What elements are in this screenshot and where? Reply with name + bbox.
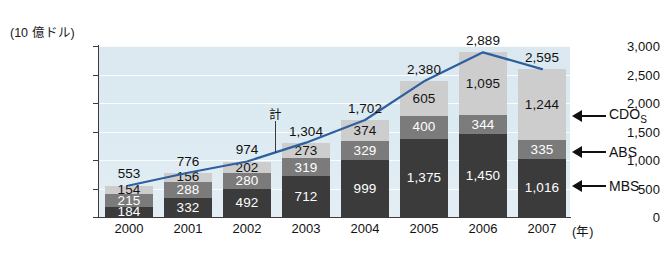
bar-segment-abs[interactable]: 335: [518, 140, 566, 159]
bar-total-value: 2,595: [525, 50, 559, 65]
y-axis-tick-mark: [93, 46, 98, 47]
bar-group[interactable]: 999329374: [341, 46, 389, 217]
bar-segment-mbs[interactable]: 492: [223, 189, 271, 217]
bar-segment-value: 999: [354, 182, 377, 196]
y-axis-unit-caption: (10 億ドル): [10, 22, 75, 41]
legend-item-mbs: MBS: [572, 179, 639, 193]
x-axis-unit-label: (年): [572, 221, 593, 240]
bar-segment-mbs[interactable]: 712: [282, 176, 330, 217]
bar-segment-cdos[interactable]: 1,244: [518, 69, 566, 140]
bar-segment-abs[interactable]: 400: [400, 116, 448, 139]
bar-segment-cdos[interactable]: 156: [164, 173, 212, 182]
bar-total-value: 1,702: [348, 101, 382, 116]
legend-item-cdos: CDOS: [572, 107, 647, 125]
bar-segment-value: 319: [295, 161, 318, 175]
bar-segment-mbs[interactable]: 1,016: [518, 159, 566, 217]
bar-segment-cdos[interactable]: 605: [400, 81, 448, 115]
bar-segment-abs[interactable]: 280: [223, 173, 271, 189]
bar-segment-abs[interactable]: 344: [459, 115, 507, 135]
bar-group[interactable]: 1,0163351,244: [518, 46, 566, 217]
bar-segment-value: 344: [472, 118, 495, 132]
bar-segment-value: 288: [177, 183, 200, 197]
y-axis-tick-mark: [93, 75, 98, 76]
y-axis-tick-label: 2,500: [568, 67, 660, 82]
x-axis-tick-label: 2007: [512, 221, 572, 236]
bar-segment-cdos[interactable]: 154: [105, 186, 153, 195]
arrow-left-icon: [572, 180, 606, 192]
bar-segment-value: 1,244: [525, 98, 559, 112]
y-axis-tick-mark: [93, 103, 98, 104]
bar-segment-value: 280: [236, 174, 259, 188]
bar-segment-value: 712: [295, 190, 318, 204]
bar-segment-mbs[interactable]: 332: [164, 198, 212, 217]
total-annotation-leader: [275, 121, 276, 153]
y-axis-tick-mark: [93, 132, 98, 133]
bar-segment-cdos[interactable]: 1,095: [459, 52, 507, 114]
x-axis-tick-label: 2001: [158, 221, 218, 236]
x-axis-line: [98, 217, 571, 218]
bar-segment-abs[interactable]: 319: [282, 158, 330, 176]
y-axis-tick-mark: [93, 217, 98, 218]
x-axis-tick-label: 2003: [276, 221, 336, 236]
y-axis-tick-mark: [93, 189, 98, 190]
bar-segment-value: 154: [118, 183, 141, 197]
bar-segment-abs[interactable]: 329: [341, 141, 389, 160]
bar-segment-value: 202: [236, 161, 259, 175]
bar-segment-value: 332: [177, 201, 200, 215]
bar-segment-mbs[interactable]: 1,450: [459, 134, 507, 217]
x-axis-tick-label: 2002: [217, 221, 277, 236]
y-axis-tick-label: 3,000: [568, 39, 660, 54]
legend-item-label: CDOS: [609, 107, 647, 125]
bar-segment-value: 1,375: [407, 171, 441, 185]
bar-segment-cdos[interactable]: 202: [223, 162, 271, 174]
bar-segment-value: 156: [177, 170, 200, 184]
legend-item-label: ABS: [609, 145, 637, 159]
bar-segment-abs[interactable]: 288: [164, 182, 212, 198]
plot-area: 1842151543322881564922802027123192739993…: [99, 46, 570, 217]
bar-segment-cdos[interactable]: 374: [341, 120, 389, 141]
bar-group[interactable]: 1,4503441,095: [459, 46, 507, 217]
bar-segment-mbs[interactable]: 1,375: [400, 139, 448, 217]
bar-segment-value: 605: [413, 92, 436, 106]
bar-segment-value: 400: [413, 120, 436, 134]
bar-total-value: 553: [118, 166, 141, 181]
bar-group[interactable]: 492280202: [223, 46, 271, 217]
bar-segment-cdos[interactable]: 273: [282, 143, 330, 159]
x-axis-tick-label: 2004: [335, 221, 395, 236]
bar-segment-value: 335: [531, 143, 554, 157]
legend-item-abs: ABS: [572, 145, 637, 159]
bar-segment-value: 273: [295, 144, 318, 158]
stacked-bar-chart: (10 億ドル) 1842151543322881564922802027123…: [0, 0, 660, 264]
bar-segment-mbs[interactable]: 999: [341, 160, 389, 217]
bar-segment-mbs[interactable]: 184: [105, 207, 153, 217]
y-axis-tick-mark: [93, 160, 98, 161]
bar-segment-value: 1,016: [525, 181, 559, 195]
bar-group[interactable]: 332288156: [164, 46, 212, 217]
bar-segment-value: 1,095: [466, 77, 500, 91]
y-axis-tick-label: 1,500: [568, 124, 660, 139]
legend-item-label: MBS: [609, 179, 639, 193]
bar-group[interactable]: 184215154: [105, 46, 153, 217]
total-annotation-label: 計: [269, 104, 282, 123]
bar-total-value: 2,889: [466, 33, 500, 48]
x-axis-tick-label: 2006: [453, 221, 513, 236]
bar-total-value: 776: [177, 154, 200, 169]
bar-total-value: 1,304: [289, 124, 323, 139]
x-axis-tick-label: 2000: [99, 221, 159, 236]
arrow-left-icon: [572, 146, 606, 158]
bar-total-value: 2,380: [407, 62, 441, 77]
bar-segment-value: 492: [236, 196, 259, 210]
bar-segment-value: 1,450: [466, 169, 500, 183]
bar-segment-value: 329: [354, 144, 377, 158]
bar-total-value: 974: [236, 142, 259, 157]
bar-segment-value: 374: [354, 124, 377, 138]
x-axis-tick-label: 2005: [394, 221, 454, 236]
arrow-left-icon: [572, 110, 606, 122]
